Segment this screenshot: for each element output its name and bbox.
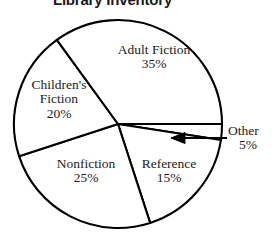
- pie-chart-graphic: [0, 0, 280, 232]
- pie-chart-figure: Library Inventory Adult Fiction 35% Chil…: [0, 0, 280, 232]
